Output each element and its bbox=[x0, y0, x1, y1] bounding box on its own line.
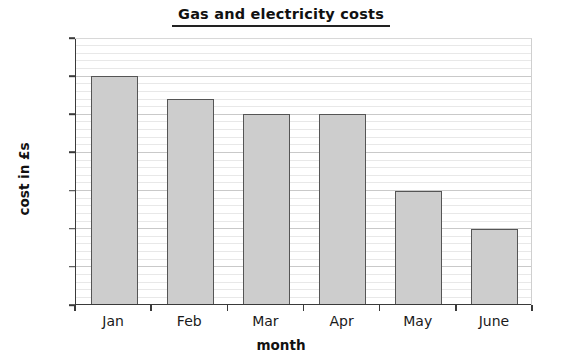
bar bbox=[471, 229, 518, 305]
gridline-minor bbox=[76, 274, 532, 275]
gridline-minor bbox=[76, 251, 532, 252]
y-tick-mark bbox=[69, 113, 75, 115]
gridline-minor bbox=[76, 182, 532, 183]
gridline-minor bbox=[76, 53, 532, 54]
gridline-major bbox=[76, 38, 532, 39]
x-tick-mark bbox=[303, 305, 305, 311]
y-tick-mark bbox=[69, 190, 75, 192]
gridline-major bbox=[76, 114, 532, 115]
bar bbox=[243, 114, 290, 305]
gridline-minor bbox=[76, 106, 532, 107]
x-tick-mark bbox=[531, 305, 533, 311]
x-tick-mark bbox=[150, 305, 152, 311]
x-tick-label: Mar bbox=[252, 313, 278, 329]
gridline-minor bbox=[76, 259, 532, 260]
y-axis-label: cost in £s bbox=[16, 119, 32, 239]
gridline-major bbox=[76, 228, 532, 229]
gridline-minor bbox=[76, 91, 532, 92]
x-tick-mark bbox=[227, 305, 229, 311]
gridline-minor bbox=[76, 144, 532, 145]
gridline-minor bbox=[76, 282, 532, 283]
gridline-major bbox=[76, 266, 532, 267]
x-tick-mark bbox=[455, 305, 457, 311]
gridline-minor bbox=[76, 213, 532, 214]
x-tick-mark bbox=[74, 305, 76, 311]
x-tick-label: Jan bbox=[102, 313, 124, 329]
x-axis-label: month bbox=[0, 337, 562, 353]
y-tick-mark bbox=[69, 75, 75, 77]
gridline-minor bbox=[76, 45, 532, 46]
gridline-minor bbox=[76, 175, 532, 176]
y-tick-mark bbox=[69, 266, 75, 268]
gridline-minor bbox=[76, 121, 532, 122]
gridline-minor bbox=[76, 167, 532, 168]
plot-area bbox=[75, 38, 532, 305]
y-tick-mark bbox=[69, 152, 75, 154]
x-tick-label: May bbox=[403, 313, 432, 329]
gridline-minor bbox=[76, 205, 532, 206]
y-tick-mark bbox=[69, 228, 75, 230]
x-tick-label: Apr bbox=[329, 313, 353, 329]
gridline-minor bbox=[76, 60, 532, 61]
gridline-major bbox=[76, 76, 532, 77]
bar bbox=[91, 76, 138, 305]
gridline-major bbox=[76, 190, 532, 191]
bar bbox=[319, 114, 366, 305]
chart-title-text: Gas and electricity costs bbox=[172, 6, 390, 27]
bar bbox=[395, 191, 442, 305]
gridline-major bbox=[76, 152, 532, 153]
chart-title: Gas and electricity costs bbox=[0, 6, 562, 27]
x-tick-mark bbox=[379, 305, 381, 311]
gridline-minor bbox=[76, 198, 532, 199]
gridline-minor bbox=[76, 160, 532, 161]
bar-chart: Gas and electricity costs 01020304050607… bbox=[0, 0, 562, 358]
gridline-minor bbox=[76, 297, 532, 298]
gridline-minor bbox=[76, 83, 532, 84]
gridline-minor bbox=[76, 289, 532, 290]
y-tick-mark bbox=[69, 37, 75, 39]
bar bbox=[167, 99, 214, 305]
gridline-minor bbox=[76, 221, 532, 222]
gridline-minor bbox=[76, 129, 532, 130]
gridline-minor bbox=[76, 99, 532, 100]
gridline-minor bbox=[76, 137, 532, 138]
x-tick-label: Feb bbox=[177, 313, 202, 329]
gridline-minor bbox=[76, 68, 532, 69]
x-tick-label: June bbox=[479, 313, 510, 329]
gridline-minor bbox=[76, 236, 532, 237]
gridline-minor bbox=[76, 243, 532, 244]
